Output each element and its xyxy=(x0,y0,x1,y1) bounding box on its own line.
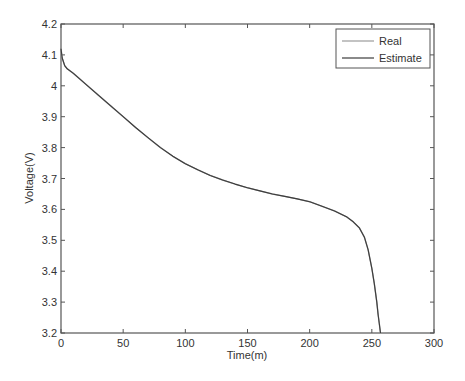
y-tick-label: 3.6 xyxy=(42,203,57,215)
y-tick-label: 3.4 xyxy=(42,265,57,277)
plot-area xyxy=(61,24,434,333)
voltage-time-chart: 050100150200250300 3.23.33.43.53.63.73.8… xyxy=(0,0,465,381)
x-axis-label: Time(m) xyxy=(227,349,268,361)
x-tick-labels: 050100150200250300 xyxy=(58,337,443,349)
legend-label-estimate: Estimate xyxy=(379,52,422,64)
y-tick-label: 4 xyxy=(51,80,57,92)
x-tick-label: 250 xyxy=(363,337,381,349)
y-tick-label: 4.2 xyxy=(42,18,57,30)
y-tick-label: 3.5 xyxy=(42,234,57,246)
y-tick-label: 3.7 xyxy=(42,173,57,185)
x-tick-label: 150 xyxy=(238,337,256,349)
legend-label-real: Real xyxy=(379,35,402,47)
y-tick-label: 3.2 xyxy=(42,327,57,339)
x-tick-label: 50 xyxy=(117,337,129,349)
y-tick-label: 4.1 xyxy=(42,49,57,61)
legend: Real Estimate xyxy=(336,29,430,68)
x-tick-label: 100 xyxy=(176,337,194,349)
y-tick-labels: 3.23.33.43.53.63.73.83.944.14.2 xyxy=(42,18,57,339)
y-tick-label: 3.9 xyxy=(42,111,57,123)
y-tick-label: 3.3 xyxy=(42,296,57,308)
y-axis-label: Voltage(V) xyxy=(23,152,35,203)
y-tick-label: 3.8 xyxy=(42,142,57,154)
x-tick-label: 200 xyxy=(300,337,318,349)
x-tick-label: 0 xyxy=(58,337,64,349)
x-tick-label: 300 xyxy=(425,337,443,349)
